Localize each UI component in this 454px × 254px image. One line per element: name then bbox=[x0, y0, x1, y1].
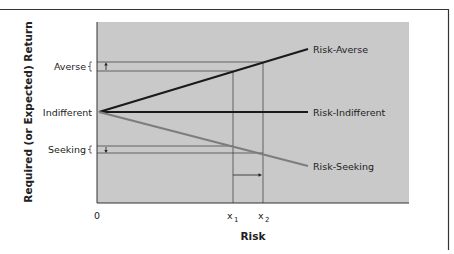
svg-text:x: x bbox=[258, 210, 264, 221]
svg-text:1: 1 bbox=[234, 216, 238, 224]
ytick-averse: Averse bbox=[54, 61, 86, 72]
xtick-x1: x 1 bbox=[227, 210, 238, 224]
label-risk-indifferent: Risk-Indifferent bbox=[313, 107, 386, 118]
xtick-zero: 0 bbox=[94, 210, 100, 221]
label-risk-seeking: Risk-Seeking bbox=[313, 161, 374, 172]
ytick-indifferent: Indifferent bbox=[43, 107, 92, 118]
ytick-seeking: Seeking bbox=[48, 144, 86, 155]
xtick-x2: x 2 bbox=[258, 210, 269, 224]
x-axis-title: Risk bbox=[241, 230, 267, 242]
svg-text:2: 2 bbox=[265, 216, 269, 224]
label-risk-averse: Risk-Averse bbox=[313, 44, 368, 55]
svg-text:x: x bbox=[227, 210, 233, 221]
y-axis-title: Required (or Expected) Return bbox=[22, 21, 34, 202]
risk-preference-chart: Risk-Averse Risk-Indifferent Risk-Seekin… bbox=[0, 0, 454, 254]
